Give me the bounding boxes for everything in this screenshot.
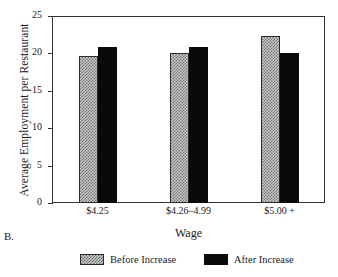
- y-axis-tick-label: 25: [32, 9, 42, 21]
- legend-swatch: [204, 254, 228, 265]
- legend-item-before-increase: Before Increase: [80, 254, 176, 265]
- legend-item-after-increase: After Increase: [204, 254, 294, 265]
- y-axis-tick-label: 5: [37, 159, 42, 171]
- y-axis-title: Average Employment per Restaurant: [18, 12, 30, 208]
- x-axis-tick-labels: $4.25$4.26–4.99$5.00 +: [52, 205, 325, 221]
- x-axis-tick-label: $4.26–4.99: [166, 205, 211, 216]
- bar-group: [79, 16, 117, 203]
- bar-group: [261, 16, 299, 203]
- bar-after-increase: [189, 47, 208, 203]
- x-axis-tick-label: $4.25: [86, 205, 109, 216]
- bar-before-increase: [261, 36, 280, 203]
- y-axis-tick-label: 0: [37, 196, 42, 208]
- bars-layer: [52, 16, 325, 203]
- legend-label: After Increase: [234, 254, 294, 265]
- figure-panel-b: Average Employment per Restaurant 051015…: [0, 0, 338, 277]
- y-axis-tick-label: 10: [32, 121, 42, 133]
- chart-legend: Before IncreaseAfter Increase: [52, 254, 332, 270]
- y-axis-tick-label: 20: [32, 46, 42, 58]
- y-axis-tick-label: 15: [32, 84, 42, 96]
- x-axis-tick-label: $5.00 +: [264, 205, 295, 216]
- y-axis-tick-mark: [48, 203, 53, 204]
- bar-group: [170, 16, 208, 203]
- legend-label: Before Increase: [110, 254, 176, 265]
- x-axis-title: Wage: [52, 226, 325, 241]
- bar-after-increase: [98, 47, 117, 203]
- panel-label: B.: [4, 230, 14, 242]
- legend-swatch: [80, 254, 104, 265]
- bar-before-increase: [79, 56, 98, 203]
- bar-before-increase: [170, 53, 189, 203]
- bar-after-increase: [280, 53, 299, 203]
